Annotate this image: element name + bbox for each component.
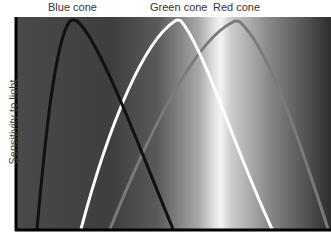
green-cone-label: Green cone [150,1,207,13]
cone-sensitivity-chart [0,0,331,237]
red-cone-label: Red cone [213,1,260,13]
y-axis-label: Sensitivity to light [7,67,19,177]
blue-cone-label: Blue cone [48,1,97,13]
plot-background [16,17,331,229]
